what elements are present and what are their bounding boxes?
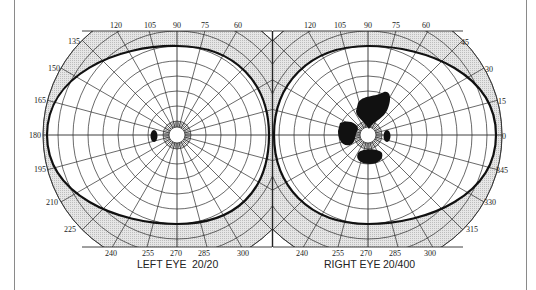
label-105: 105 — [334, 21, 346, 30]
label-75: 75 — [392, 21, 400, 30]
label-300: 300 — [424, 249, 436, 258]
label-285: 285 — [389, 249, 401, 258]
label-270: 270 — [170, 249, 182, 258]
label-270: 270 — [360, 249, 372, 258]
label-15: 15 — [498, 97, 506, 106]
label-90: 90 — [173, 21, 181, 30]
label-60: 60 — [422, 21, 430, 30]
label-195: 195 — [34, 165, 46, 174]
label-120: 120 — [110, 21, 122, 30]
label-120: 120 — [304, 21, 316, 30]
label-105: 105 — [144, 21, 156, 30]
label-225: 225 — [64, 225, 76, 234]
label-315: 315 — [466, 225, 478, 234]
label-330: 330 — [484, 198, 496, 207]
label-90: 90 — [364, 21, 372, 30]
label-345: 345 — [496, 166, 508, 175]
label-180: 180 — [29, 131, 41, 140]
fixation-center — [169, 127, 185, 143]
label-300: 300 — [237, 249, 249, 258]
label-150: 150 — [48, 64, 60, 73]
right-eye-acuity: 20/400 — [383, 258, 415, 270]
label-255: 255 — [142, 249, 154, 258]
label-60: 60 — [234, 21, 242, 30]
label-45: 45 — [461, 38, 469, 47]
left-eye-chart — [43, 1, 311, 269]
scotoma-blind-spot — [151, 130, 158, 142]
label-255: 255 — [332, 249, 344, 258]
label-135: 135 — [68, 37, 80, 46]
label-75: 75 — [201, 21, 209, 30]
label-285: 285 — [198, 249, 210, 258]
fixation-center — [360, 127, 376, 143]
label-0: 0 — [502, 132, 506, 141]
left-eye-acuity: 20/20 — [192, 258, 218, 270]
right-eye-caption: RIGHT EYE — [324, 258, 380, 270]
label-240: 240 — [296, 249, 308, 258]
label-165: 165 — [34, 96, 46, 105]
scotoma-blind-spot — [384, 130, 391, 142]
left-eye-caption: LEFT EYE — [137, 258, 186, 270]
label-210: 210 — [46, 198, 58, 207]
label-240: 240 — [105, 249, 117, 258]
visual-field-figure: 120 105 90 75 60 135 150 165 180 195 210… — [0, 0, 536, 290]
label-30: 30 — [485, 65, 493, 74]
